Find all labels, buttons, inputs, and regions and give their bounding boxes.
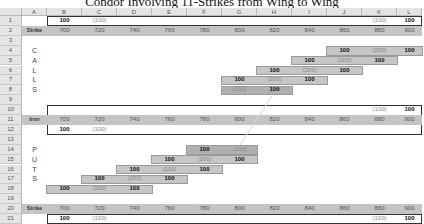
cell-g15[interactable]: 100: [222, 155, 257, 165]
row-header-21[interactable]: 21: [0, 214, 22, 224]
row-header-2[interactable]: 2: [0, 26, 22, 36]
strike-row-top-strike-760: 760: [152, 26, 187, 36]
column-header-e[interactable]: E: [152, 8, 187, 16]
strike-row-bottom-strike-820: 820: [257, 204, 292, 214]
cell-c12[interactable]: (100): [82, 125, 117, 135]
row-header-5[interactable]: 5: [0, 56, 22, 66]
strike-row-top-strike-860: 860: [327, 26, 362, 36]
column-header-a[interactable]: A: [22, 8, 47, 16]
cell-i5[interactable]: 100: [292, 56, 327, 66]
iron-strike-row-strike-840: 840: [292, 115, 327, 125]
iron-strike-row-strike-880: 880: [362, 115, 397, 125]
cell-d16[interactable]: 100: [117, 165, 152, 175]
cell-g14[interactable]: (100): [222, 145, 257, 155]
puts-label-letter: S: [22, 174, 47, 184]
row-header-8[interactable]: 8: [0, 85, 22, 95]
column-header-b[interactable]: B: [47, 8, 82, 16]
calls-label-letter: L: [22, 75, 47, 85]
row-header-20[interactable]: 20: [0, 204, 22, 214]
cell-f15[interactable]: (200): [187, 155, 222, 165]
iron-strike-row-strike-900: 900: [397, 115, 422, 125]
cell-g8[interactable]: (100): [222, 85, 257, 95]
row-header-9[interactable]: 9: [0, 95, 22, 105]
row-header-16[interactable]: 16: [0, 165, 22, 175]
cell-l21[interactable]: 100: [397, 214, 422, 224]
cell-d17[interactable]: (200): [117, 174, 152, 184]
column-header-g[interactable]: G: [222, 8, 257, 16]
cell-h6[interactable]: 100: [257, 66, 292, 76]
strike-row-bottom-label: Strike: [22, 204, 47, 214]
cell-c1[interactable]: (100): [82, 16, 117, 26]
cell-i6[interactable]: (200): [292, 66, 327, 76]
column-header-k[interactable]: K: [362, 8, 397, 16]
row-header-19[interactable]: 19: [0, 194, 22, 204]
cell-k21[interactable]: (100): [362, 214, 397, 224]
row-header-7[interactable]: 7: [0, 75, 22, 85]
strike-row-top-strike-900: 900: [397, 26, 422, 36]
row-header-18[interactable]: 18: [0, 184, 22, 194]
cell-f14[interactable]: 100: [187, 145, 222, 155]
cell-j5[interactable]: (200): [327, 56, 362, 66]
cell-k5[interactable]: 100: [362, 56, 397, 66]
cell-f16[interactable]: 100: [187, 165, 222, 175]
row-header-14[interactable]: 14: [0, 145, 22, 155]
strike-row-bottom-strike-720: 720: [82, 204, 117, 214]
column-header-c[interactable]: C: [82, 8, 117, 16]
row-header-1[interactable]: 1: [0, 16, 22, 26]
column-header-i[interactable]: I: [292, 8, 327, 16]
cell-h7[interactable]: (200): [257, 75, 292, 85]
row-header-17[interactable]: 17: [0, 174, 22, 184]
strike-row-top-strike-880: 880: [362, 26, 397, 36]
column-header-d[interactable]: D: [117, 8, 152, 16]
column-header-l[interactable]: L: [397, 8, 422, 16]
iron-strike-row-strike-780: 780: [187, 115, 222, 125]
iron-strike-row-strike-820: 820: [257, 115, 292, 125]
row-header-11[interactable]: 11: [0, 115, 22, 125]
strike-row-bottom-strike-780: 780: [187, 204, 222, 214]
cell-e17[interactable]: 100: [152, 174, 187, 184]
calls-label-letter: L: [22, 66, 47, 76]
calls-label-letter: C: [22, 46, 47, 56]
cell-b1[interactable]: 100: [47, 16, 82, 26]
cell-b18[interactable]: 100: [47, 184, 82, 194]
cell-d18[interactable]: 100: [117, 184, 152, 194]
column-header-j[interactable]: J: [327, 8, 362, 16]
cell-k4[interactable]: (200): [362, 46, 397, 56]
select-all-corner[interactable]: [0, 8, 22, 16]
cell-k10[interactable]: (100): [362, 105, 397, 115]
cell-h8[interactable]: 100: [257, 85, 292, 95]
strike-row-top-strike-700: 700: [47, 26, 82, 36]
strike-row-top-strike-740: 740: [117, 26, 152, 36]
strike-row-bottom-strike-700: 700: [47, 204, 82, 214]
column-header-f[interactable]: F: [187, 8, 222, 16]
cell-l4[interactable]: 100: [397, 46, 422, 56]
cell-j6[interactable]: 100: [327, 66, 362, 76]
iron-strike-row-strike-760: 760: [152, 115, 187, 125]
cell-b21[interactable]: 100: [47, 214, 82, 224]
cell-c21[interactable]: (100): [82, 214, 117, 224]
cell-j4[interactable]: 100: [327, 46, 362, 56]
cell-c17[interactable]: 100: [82, 174, 117, 184]
row-header-13[interactable]: 13: [0, 135, 22, 145]
cell-c18[interactable]: (200): [82, 184, 117, 194]
column-header-h[interactable]: H: [257, 8, 292, 16]
cell-l10[interactable]: 100: [397, 105, 422, 115]
cell-e15[interactable]: 100: [152, 155, 187, 165]
calls-label-letter: A: [22, 56, 47, 66]
row-header-10[interactable]: 10: [0, 105, 22, 115]
cell-l1[interactable]: 100: [397, 16, 422, 26]
row-header-15[interactable]: 15: [0, 155, 22, 165]
strike-row-bottom-strike-840: 840: [292, 204, 327, 214]
cell-i7[interactable]: 100: [292, 75, 327, 85]
cell-g7[interactable]: 100: [222, 75, 257, 85]
row-header-12[interactable]: 12: [0, 125, 22, 135]
cell-b12[interactable]: 100: [47, 125, 82, 135]
row-header-6[interactable]: 6: [0, 66, 22, 76]
strike-row-bottom-strike-740: 740: [117, 204, 152, 214]
strike-row-bottom-strike-880: 880: [362, 204, 397, 214]
row-header-3[interactable]: 3: [0, 36, 22, 46]
cell-e16[interactable]: (200): [152, 165, 187, 175]
strike-row-top-label: Strike: [22, 26, 47, 36]
row-header-4[interactable]: 4: [0, 46, 22, 56]
cell-k1[interactable]: (100): [362, 16, 397, 26]
